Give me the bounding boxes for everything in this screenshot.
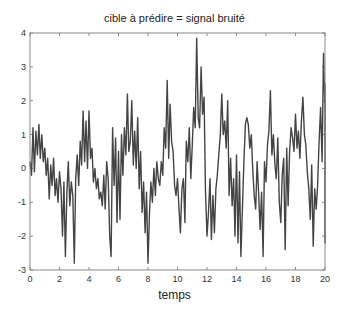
y-tick-label: -3 xyxy=(18,265,26,275)
x-tick-label: 12 xyxy=(202,274,212,284)
x-tick-label: 18 xyxy=(290,274,300,284)
x-tick-label: 10 xyxy=(172,274,182,284)
y-tick-label: -2 xyxy=(18,231,26,241)
x-tick-label: 8 xyxy=(145,274,150,284)
y-tick-label: -1 xyxy=(18,197,26,207)
x-tick-label: 4 xyxy=(86,274,91,284)
x-tick-label: 14 xyxy=(231,274,241,284)
y-tick-label: 3 xyxy=(21,62,26,72)
x-tick-label: 6 xyxy=(116,274,121,284)
y-tick-label: 0 xyxy=(21,163,26,173)
x-tick-label: 2 xyxy=(57,274,62,284)
signal-line xyxy=(30,38,325,263)
x-tick-label: 20 xyxy=(320,274,330,284)
y-tick-label: 1 xyxy=(21,130,26,140)
x-tick-label: 16 xyxy=(261,274,271,284)
x-tick-label: 0 xyxy=(27,274,32,284)
y-tick-label: 4 xyxy=(21,28,26,38)
y-tick-label: 2 xyxy=(21,96,26,106)
x-axis-label: temps xyxy=(0,288,349,302)
figure: cible à prédire = signal bruité 02468101… xyxy=(0,0,349,316)
plot-area: 02468101214161820-3-2-101234 xyxy=(0,0,349,316)
